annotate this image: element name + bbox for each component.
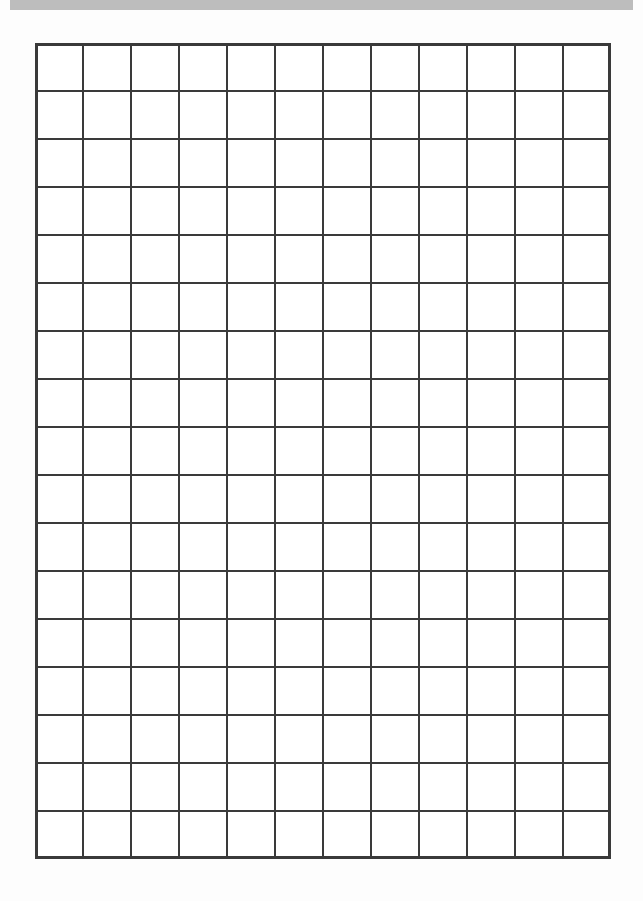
top-header-bar bbox=[10, 0, 633, 10]
graph-paper-grid bbox=[35, 43, 611, 859]
grid-lines bbox=[35, 43, 611, 859]
